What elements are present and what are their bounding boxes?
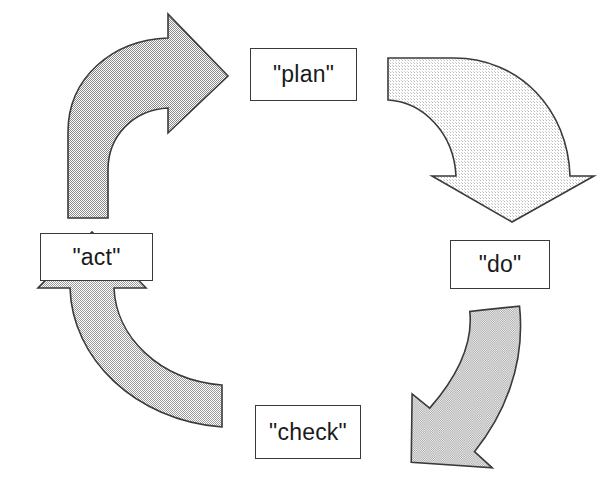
node-act-label: "act" [72,246,120,269]
arrow-do-to-check [396,306,536,476]
node-check-label: "check" [269,421,347,444]
pdca-cycle-diagram: "plan" "do" "check" "act" [0,0,604,494]
arrow-act-to-plan [68,14,228,218]
arrow-plan-to-do [388,58,594,222]
node-plan[interactable]: "plan" [250,48,357,101]
node-do-label: "do" [479,253,522,276]
node-do[interactable]: "do" [450,240,550,289]
node-act[interactable]: "act" [40,233,153,281]
node-check[interactable]: "check" [255,405,361,459]
node-plan-label: "plan" [273,63,334,86]
